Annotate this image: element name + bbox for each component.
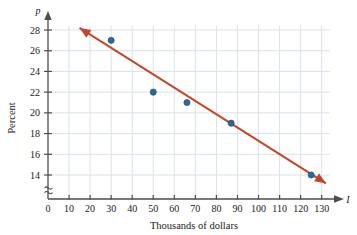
scatter-plot-figure: 0102030405060708090100110120130 14161820… — [0, 0, 357, 235]
y-axis-tick-label: 16 — [30, 149, 40, 160]
trend-line-arrow-start-icon — [80, 28, 92, 38]
x-axis-tick-label: 70 — [190, 203, 200, 214]
x-axis-tick-label: 40 — [127, 203, 137, 214]
y-axis-variable-label: p — [35, 5, 41, 16]
y-axis-title: Percent — [6, 102, 17, 134]
data-point — [150, 89, 156, 95]
y-axis-tick-label: 14 — [30, 170, 40, 181]
y-axis-tick-label: 26 — [30, 45, 40, 56]
x-axis-tick-label: 130 — [314, 203, 329, 214]
x-axis-tick-label: 120 — [293, 203, 308, 214]
x-axis-tick-label: 80 — [211, 203, 221, 214]
trend-line — [80, 28, 326, 183]
x-axis-tick-label: 0 — [46, 203, 51, 214]
x-axis-variable-label: I — [345, 194, 350, 205]
y-axis-tick-label: 22 — [30, 87, 40, 98]
axis-lines — [44, 11, 344, 203]
y-axis-tick-label: 24 — [30, 66, 40, 77]
x-axis-tick-label: 20 — [85, 203, 95, 214]
x-axis-tick-labels: 0102030405060708090100110120130 — [46, 203, 330, 214]
x-axis-tick-label: 50 — [148, 203, 158, 214]
grid-lines — [48, 26, 330, 199]
x-axis-tick-label: 10 — [64, 203, 74, 214]
y-axis-arrow-icon — [44, 11, 51, 20]
y-axis-tick-label: 28 — [30, 25, 40, 36]
x-axis-tick-label: 110 — [272, 203, 287, 214]
trend-line-segment — [80, 28, 326, 183]
data-point — [184, 99, 190, 105]
y-axis-tick-label: 20 — [30, 107, 40, 118]
x-axis-title: Thousands of dollars — [150, 220, 238, 231]
x-axis-tick-label: 30 — [106, 203, 116, 214]
x-axis-tick-label: 60 — [169, 203, 179, 214]
data-point — [228, 120, 234, 126]
x-axis-tick-label: 90 — [232, 203, 242, 214]
x-axis-arrow-icon — [334, 195, 344, 202]
y-axis-tick-labels: 1416182022242628 — [30, 25, 40, 181]
x-axis-tick-label: 100 — [251, 203, 266, 214]
y-axis-tick-label: 18 — [30, 128, 40, 139]
data-point — [108, 37, 114, 43]
chart-canvas: 0102030405060708090100110120130 14161820… — [0, 0, 357, 235]
data-point — [308, 172, 314, 178]
